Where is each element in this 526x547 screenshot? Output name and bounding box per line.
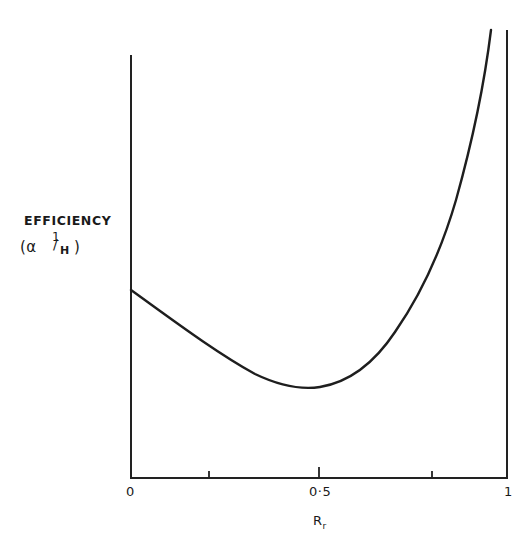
efficiency-curve [131, 30, 491, 388]
y-label-close-paren: ) [74, 238, 80, 256]
y-label-fraction-den: H [60, 244, 70, 257]
x-label-main: R [313, 513, 323, 528]
x-tick-label-0: 0 [126, 484, 135, 499]
x-axis-label: Rr [313, 513, 327, 531]
x-tick-label-0-5: 0·5 [309, 484, 331, 499]
y-label-open-paren: (α [20, 238, 37, 256]
chart-canvas [0, 0, 526, 547]
x-tick-label-1: 1 [504, 484, 513, 499]
x-label-subscript: r [323, 521, 327, 531]
y-axis-label-line2: (α 1 / H ) [20, 238, 37, 256]
y-axis-label-line1: EFFICIENCY [24, 213, 111, 228]
y-label-fraction-slash: / [53, 236, 58, 252]
